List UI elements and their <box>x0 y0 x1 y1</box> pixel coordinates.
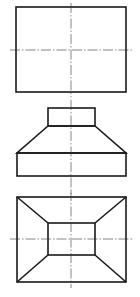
side-view-top-block <box>48 108 95 126</box>
side-view <box>17 100 126 194</box>
top-view-edge-tl <box>17 197 48 223</box>
side-view-base-block <box>17 153 126 176</box>
front-view <box>10 3 134 97</box>
top-view <box>10 191 134 288</box>
top-view-edge-bl <box>17 255 48 282</box>
top-view-edge-br <box>95 255 126 282</box>
side-view-frustum <box>17 126 126 153</box>
top-view-edge-tr <box>95 197 126 223</box>
technical-drawing <box>0 0 140 297</box>
